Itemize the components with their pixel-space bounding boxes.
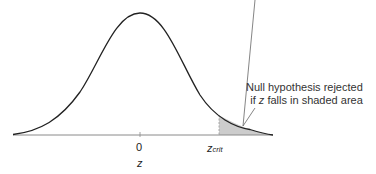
annot-pre: if [250,94,259,106]
annotation-line-1: Null hypothesis rejected [246,81,363,94]
normal-curve [13,13,273,135]
annotation-line-2: if z falls in shaded area [246,94,363,107]
annotation-leader [243,0,255,126]
rejection-region [219,116,272,136]
z-axis-label: z [137,157,143,169]
rejection-annotation: Null hypothesis rejected if z falls in s… [246,81,363,107]
zero-label: 0 [136,141,142,153]
annot-post: falls in shaded area [264,94,362,106]
zcrit-label: zcrit [207,142,223,156]
zcrit-subscript: crit [213,145,223,154]
